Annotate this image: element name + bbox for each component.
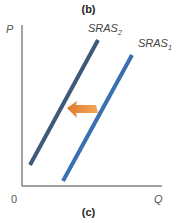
sras2-label-text: SRAS bbox=[88, 22, 118, 34]
origin-label: 0 bbox=[11, 193, 17, 205]
x-axis-label: Q bbox=[154, 193, 163, 205]
y-axis-label: P bbox=[6, 23, 13, 35]
sras2-line bbox=[30, 40, 98, 165]
sras2-label: SRAS2 bbox=[88, 22, 122, 36]
sras1-line bbox=[63, 55, 132, 181]
sras2-label-subscript: 2 bbox=[118, 29, 122, 36]
sras1-label-subscript: 1 bbox=[168, 44, 172, 51]
panel-label-bottom: (c) bbox=[0, 206, 177, 218]
shift-arrow-icon bbox=[67, 101, 98, 118]
sras1-label: SRAS1 bbox=[138, 37, 172, 51]
sras-shift-chart: (b) P Q 0 SRAS2 SRAS1 (c) bbox=[0, 0, 177, 223]
sras1-label-text: SRAS bbox=[138, 37, 168, 49]
